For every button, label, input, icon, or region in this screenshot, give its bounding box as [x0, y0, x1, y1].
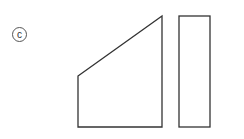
diagram-figure: c	[0, 0, 244, 139]
trapezoid-shape	[78, 16, 162, 127]
shapes-canvas	[0, 0, 244, 139]
rectangle-shape	[179, 16, 210, 127]
